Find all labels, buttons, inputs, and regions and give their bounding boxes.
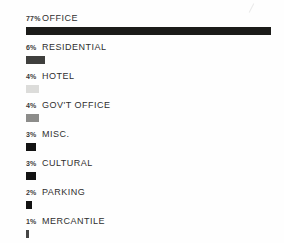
bar-percent-label: 4%	[26, 73, 42, 80]
bar-category-label: GOV'T OFFICE	[42, 100, 111, 110]
bar-row-residential: 6% RESIDENTIAL	[26, 42, 284, 64]
bar-percent-label: 6%	[26, 44, 42, 51]
bar-percent-label: 1%	[26, 218, 42, 225]
bar-office	[26, 27, 271, 35]
bar-category-label: RESIDENTIAL	[42, 42, 107, 52]
bar-label-line: 77% OFFICE	[26, 13, 284, 23]
bar-category-label: MERCANTILE	[42, 216, 105, 226]
bar-label-line: 1% MERCANTILE	[26, 216, 284, 226]
bar-mercantile	[26, 230, 29, 238]
bar-label-line: 2% PARKING	[26, 187, 284, 197]
bar-label-line: 3% CULTURAL	[26, 158, 284, 168]
bar-row-office: 77% OFFICE	[26, 13, 284, 35]
bar-row-govt-office: 4% GOV'T OFFICE	[26, 100, 284, 122]
bar-label-line: 6% RESIDENTIAL	[26, 42, 284, 52]
bar-category-label: CULTURAL	[42, 158, 93, 168]
bar-percent-label: 2%	[26, 189, 42, 196]
bar-cultural	[26, 172, 36, 180]
bar-percent-label: 3%	[26, 160, 42, 167]
bar-row-parking: 2% PARKING	[26, 187, 284, 209]
building-use-bar-chart: 77% OFFICE 6% RESIDENTIAL 4% HOTEL 4% GO…	[0, 0, 284, 243]
bar-category-label: OFFICE	[42, 13, 78, 23]
bar-category-label: PARKING	[42, 187, 85, 197]
bar-govt-office	[26, 114, 39, 122]
bar-parking	[26, 201, 32, 209]
bar-category-label: MISC.	[42, 129, 70, 139]
bar-row-hotel: 4% HOTEL	[26, 71, 284, 93]
bar-residential	[26, 56, 45, 64]
bar-percent-label: 77%	[26, 15, 42, 22]
bar-row-cultural: 3% CULTURAL	[26, 158, 284, 180]
bar-category-label: HOTEL	[42, 71, 75, 81]
bar-misc	[26, 143, 36, 151]
bar-label-line: 4% GOV'T OFFICE	[26, 100, 284, 110]
bar-label-line: 4% HOTEL	[26, 71, 284, 81]
bar-percent-label: 4%	[26, 102, 42, 109]
bar-hotel	[26, 85, 39, 93]
corner-tick-mark	[249, 3, 255, 12]
bar-percent-label: 3%	[26, 131, 42, 138]
bar-row-mercantile: 1% MERCANTILE	[26, 216, 284, 238]
bar-row-misc: 3% MISC.	[26, 129, 284, 151]
bar-label-line: 3% MISC.	[26, 129, 284, 139]
